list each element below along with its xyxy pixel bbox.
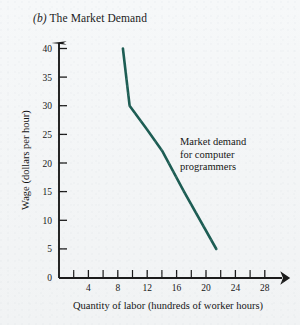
y-tick-label: 5 [47,244,52,254]
annotation-line-1: Market demand [180,136,288,149]
y-tick-label: 20 [43,159,53,169]
y-tick-label: 35 [43,73,53,83]
figure-panel: (b) The Market Demand [0,0,300,325]
annotation-line-3: programmers [180,161,288,174]
x-axis-ticks [74,270,265,278]
y-axis-ticks [59,49,67,249]
y-axis-tick-labels: 40 35 30 25 20 15 10 5 0 [43,44,53,283]
x-tick-label: 20 [201,283,211,293]
y-tick-label: 0 [47,273,52,283]
y-tick-label: 30 [43,101,53,111]
x-tick-label: 28 [260,283,270,293]
x-tick-label: 4 [86,283,91,293]
x-tick-label: 16 [172,283,182,293]
y-axis-title: Wage (dollars per hour) [20,110,32,210]
y-tick-label: 15 [43,187,53,197]
y-tick-label: 40 [43,44,53,54]
x-tick-label: 12 [142,283,152,293]
x-axis-tick-labels: 4 8 12 16 20 24 28 [86,283,270,293]
x-axis-title: Quantity of labor (hundreds of worker ho… [73,300,264,312]
annotation-line-2: for computer [180,149,288,162]
x-tick-label: 24 [231,283,241,293]
curve-annotation: Market demand for computer programmers [180,136,288,174]
x-tick-label: 8 [115,283,120,293]
y-tick-label: 25 [43,130,53,140]
y-tick-label: 10 [43,216,53,226]
